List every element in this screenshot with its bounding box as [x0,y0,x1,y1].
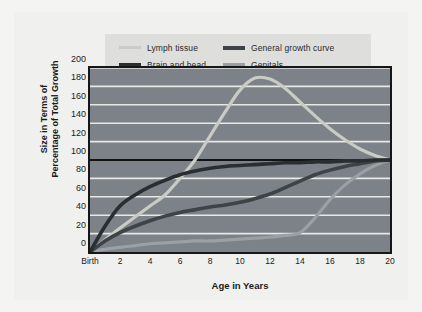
y-tick-label: 40 [56,201,86,211]
x-tick-label: 8 [208,256,213,266]
y-tick-label: 140 [56,109,86,119]
x-tick-label: 4 [148,256,153,266]
y-tick-label: 180 [56,72,86,82]
plot-area-wrapper: 020406080100120140160180200 Birth2468101… [88,66,392,254]
line-swatch-general-icon [223,46,245,50]
y-tick-label: 160 [56,91,86,101]
y-tick-label: 80 [56,164,86,174]
x-tick-label: 12 [265,256,274,266]
x-tick-label: Birth [81,256,98,266]
x-axis-ticks: Birth2468101214161820 [88,256,392,274]
x-tick-label: 14 [295,256,304,266]
chart-svg [90,68,390,252]
legend-row-1: Lymph tissue General growth curve [119,39,371,56]
line-swatch-lymph-icon [119,46,141,49]
x-tick-label: 20 [385,256,394,266]
x-tick-label: 16 [325,256,334,266]
y-axis-ticks: 020406080100120140160180200 [56,58,86,260]
y-tick-label: 100 [56,146,86,156]
x-tick-label: 2 [118,256,123,266]
x-tick-label: 6 [178,256,183,266]
legend-item-general-growth-curve: General growth curve [223,43,334,53]
y-tick-label: 120 [56,128,86,138]
chart-page: Lymph tissue General growth curve Brain … [0,0,422,312]
y-tick-label: 0 [56,238,86,248]
x-tick-label: 10 [235,256,244,266]
y-tick-label: 200 [56,54,86,64]
legend-label-lymph-tissue: Lymph tissue [147,43,198,53]
series-line-genitals [90,160,390,252]
chart-card: Lymph tissue General growth curve Brain … [14,12,408,300]
legend-label-general-growth-curve: General growth curve [251,43,334,53]
plot-area [88,66,392,254]
legend-item-lymph-tissue: Lymph tissue [119,43,223,53]
x-axis-title: Age in Years [88,280,392,291]
y-tick-label: 60 [56,183,86,193]
y-tick-label: 20 [56,220,86,230]
y-axis-title-line1: Size in Terms of [39,39,50,199]
x-tick-label: 18 [355,256,364,266]
